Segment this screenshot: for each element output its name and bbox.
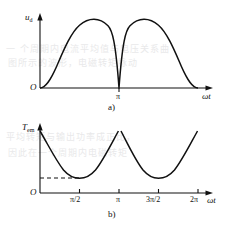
panel-b-axes xyxy=(37,123,213,196)
panel-b-curve-tem-first-trough xyxy=(40,131,118,178)
panel-b-y-axis-label: Tem xyxy=(22,123,34,132)
panel-b-tick-label-pi: π xyxy=(116,196,120,204)
figure-container: 一 个周期内电流平均值与电压关系曲 图所示的波形，电磁转矩脉动 平均转矩与输出功… xyxy=(0,0,229,233)
panel-b-y-axis-arrow xyxy=(37,123,42,131)
panel-b-tick-label-3pi-over-2: 3π/2 xyxy=(146,196,160,204)
panel-b-x-axis-label: ωt xyxy=(207,196,216,205)
panel-b-y-axis-label-sub: em xyxy=(27,127,34,133)
panel-b-origin-label: O xyxy=(30,188,37,197)
panel-b-tick-label-pi-over-2: π/2 xyxy=(70,196,80,204)
panel-b-curve-tem-second-trough xyxy=(121,131,198,178)
panel-b-caption: b) xyxy=(108,210,116,219)
panel-b-tick-label-2pi: 2π xyxy=(190,196,198,204)
